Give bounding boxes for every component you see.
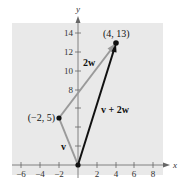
x-axis-arrow-icon bbox=[163, 163, 170, 168]
origin-point bbox=[75, 162, 80, 167]
x-tick-label: 6 bbox=[132, 169, 137, 179]
point-label-minus2-5: (−2, 5) bbox=[28, 112, 55, 124]
x-tick-label: 2 bbox=[95, 169, 100, 179]
y-tick-label: 8 bbox=[69, 85, 74, 95]
y-axis-arrow-icon bbox=[76, 16, 81, 23]
x-tick-label: −6 bbox=[16, 169, 26, 179]
x-tick-label: −4 bbox=[35, 169, 45, 179]
vector-label-2w: 2w bbox=[83, 57, 96, 68]
point-label-4-13: (4, 13) bbox=[103, 28, 130, 40]
y-tick-label: 12 bbox=[64, 47, 73, 57]
y-tick-label: 10 bbox=[64, 66, 74, 76]
vector-label-v: v bbox=[61, 141, 66, 152]
x-tick-label: 8 bbox=[151, 169, 156, 179]
point-4-13 bbox=[113, 40, 119, 46]
point-minus2-5 bbox=[56, 115, 61, 120]
x-tick-label: −2 bbox=[54, 169, 64, 179]
x-axis-label: x bbox=[172, 160, 177, 170]
vector-label-sum: v + 2w bbox=[101, 104, 130, 115]
y-tick-label: 14 bbox=[64, 28, 74, 38]
plot-background bbox=[12, 23, 163, 175]
y-axis-label: y bbox=[75, 4, 80, 14]
x-tick-label: 4 bbox=[114, 169, 119, 179]
vector-chart: −6 −4 −2 2 4 6 8 x 8 10 12 14 y bbox=[0, 0, 180, 191]
